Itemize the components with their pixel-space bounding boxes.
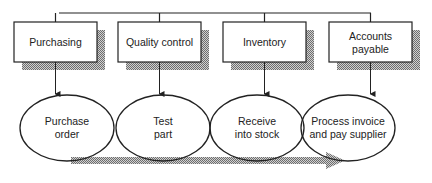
- process-step-label: Process invoice: [311, 115, 385, 127]
- department-box: Accountspayable: [329, 13, 420, 94]
- department-label: Inventory: [243, 36, 287, 48]
- department-box: Purchasing: [14, 13, 105, 94]
- process-flow-diagram: PurchasingQuality controlInventoryAccoun…: [0, 0, 432, 183]
- process-step-label: Test: [153, 115, 172, 127]
- process-step-label: Receive: [238, 115, 276, 127]
- department-label: payable: [352, 43, 389, 55]
- process-step-label: Purchase: [45, 115, 90, 127]
- department-label: Accounts: [349, 30, 392, 42]
- process-flow-arrow: [71, 152, 345, 169]
- process-step-label: into stock: [235, 128, 280, 140]
- process-step-label: and pay supplier: [309, 128, 387, 140]
- process-step-label: order: [55, 128, 80, 140]
- department-label: Quality control: [126, 36, 193, 48]
- department-box: Inventory: [223, 13, 314, 94]
- department-box: Quality control: [118, 13, 209, 94]
- department-label: Purchasing: [29, 36, 82, 48]
- process-step-label: part: [154, 128, 172, 140]
